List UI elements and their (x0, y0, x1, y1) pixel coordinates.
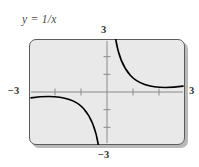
plot-canvas (29, 39, 185, 145)
axis-label-x-min: −3 (8, 86, 19, 97)
axis-label-y-min: −3 (98, 150, 109, 161)
axis-label-y-max: 3 (101, 25, 106, 36)
axis-label-x-max: 3 (189, 86, 194, 97)
equation-label: y = 1/x (22, 13, 57, 26)
curve-branch-negative (31, 96, 98, 145)
figure-root: y = 1/x 3 −3 −3 3 (0, 0, 199, 167)
curve-branch-positive (116, 39, 183, 88)
